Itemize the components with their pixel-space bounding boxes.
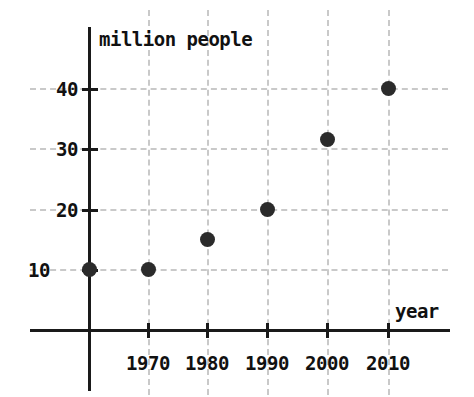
y-axis-tick-30 [82,148,98,151]
data-point-2000 [320,132,335,147]
x-axis-tick-2010 [387,323,390,338]
x-axis-tick-1980 [206,323,209,338]
x-axis-tick-label-2010: 2010 [358,352,418,374]
x-axis-tick-2000 [326,323,329,338]
y-axis-tick-label-20: 20 [28,199,78,221]
x-axis-tick-label-2000: 2000 [297,352,357,374]
y-axis-tick-label-30: 30 [28,138,78,160]
y-axis-title: million people [99,28,252,50]
x-axis-tick-label-1980: 1980 [177,352,237,374]
data-point-1980 [200,232,215,247]
x-axis-title: year [395,300,439,322]
data-point-1990 [260,202,275,217]
scatter-plot-canvas: 40 30 20 10 1970 1980 1990 2000 2010 mil… [0,0,474,397]
x-axis-tick-1970 [147,323,150,338]
data-point-2010 [381,81,396,96]
data-point-1970 [141,262,156,277]
x-axis-tick-label-1990: 1990 [237,352,297,374]
y-axis-tick-20 [82,209,98,212]
x-axis-tick-1990 [266,323,269,338]
y-axis-tick-label-10: 10 [28,259,50,281]
data-point-1960 [82,262,97,277]
x-axis-tick-label-1970: 1970 [118,352,178,374]
y-axis-tick-40 [82,88,98,91]
y-axis-tick-label-40: 40 [28,78,78,100]
